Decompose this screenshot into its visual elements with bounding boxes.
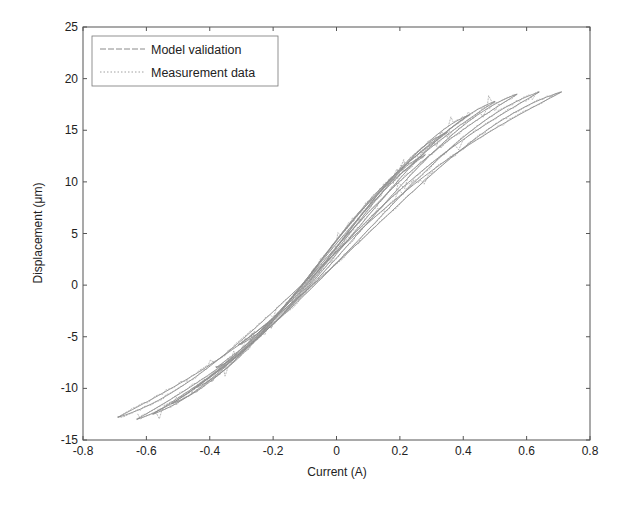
y-axis-label: Displacement (μm) [31,183,45,284]
plot-background [83,27,590,440]
legend-label-measurement: Measurement data [151,66,255,80]
y-tick-label: -5 [67,330,78,344]
hysteresis-chart: -0.8-0.6-0.4-0.200.20.40.60.8-15-10-5051… [0,0,637,511]
x-tick-label: 0.8 [582,444,599,458]
y-tick-label: -15 [61,433,79,447]
y-tick-label: -10 [61,381,79,395]
x-tick-label: -0.6 [136,444,157,458]
x-tick-label: 0 [333,444,340,458]
y-tick-label: 0 [71,278,78,292]
legend-label-model: Model validation [151,43,241,57]
x-tick-label: -0.2 [263,444,284,458]
x-tick-label: -0.4 [199,444,220,458]
y-tick-label: 5 [71,227,78,241]
y-tick-label: 25 [65,20,79,34]
y-tick-label: 10 [65,175,79,189]
x-tick-label: 0.6 [518,444,535,458]
legend: Model validation Measurement data [92,36,278,86]
x-axis-label: Current (A) [307,465,366,479]
x-tick-label: 0.4 [455,444,472,458]
y-tick-label: 20 [65,72,79,86]
y-tick-label: 15 [65,123,79,137]
x-tick-label: 0.2 [392,444,409,458]
